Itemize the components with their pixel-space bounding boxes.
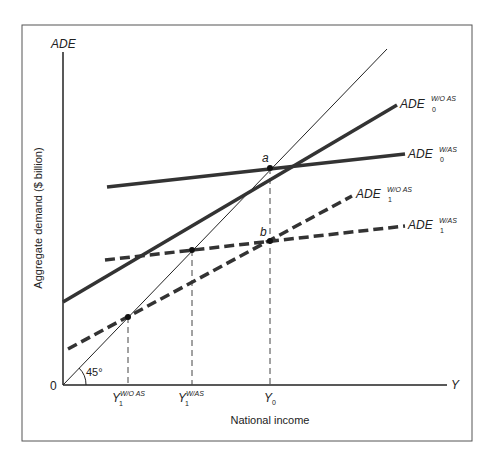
ade1-wo-as-label: ADE W/O AS 1 [355, 186, 412, 203]
svg-text:1: 1 [119, 400, 123, 407]
y-axis-title: ADE [50, 37, 77, 51]
svg-text:ADE: ADE [407, 147, 434, 161]
point-y1-w [189, 247, 195, 253]
origin-label: 0 [50, 379, 57, 393]
svg-text:W/O AS: W/O AS [120, 390, 145, 397]
45-degree-line [63, 49, 387, 385]
point-y1-wo [125, 314, 131, 320]
svg-text:0: 0 [272, 399, 276, 406]
svg-text:1: 1 [388, 196, 392, 203]
svg-text:W/AS: W/AS [186, 390, 204, 397]
svg-text:ADE: ADE [407, 218, 434, 232]
svg-text:1: 1 [185, 400, 189, 407]
ade0-wo-as-label: ADE W/O AS 0 [399, 95, 456, 113]
point-a-label: a [262, 151, 269, 165]
svg-text:0: 0 [432, 106, 436, 113]
ade1-w-as-line [105, 226, 405, 260]
ade-diagram: ADE Y 0 45° Aggregate demand ($ billion)… [0, 0, 494, 463]
point-a [267, 165, 273, 171]
x-axis-title: Y [451, 378, 460, 392]
tick-y0: Y 0 [264, 391, 276, 406]
ade0-w-as-label: ADE W/AS 0 [407, 146, 457, 163]
svg-text:ADE: ADE [355, 187, 382, 201]
angle-label: 45° [86, 366, 103, 378]
svg-text:W/O AS: W/O AS [387, 186, 412, 193]
ade0-wo-as-line [63, 105, 397, 302]
svg-text:W/AS: W/AS [439, 217, 457, 224]
point-b [267, 238, 273, 244]
diagram-frame [22, 25, 472, 441]
ade1-w-as-label: ADE W/AS 1 [407, 217, 457, 234]
y-axis-label: Aggregate demand ($ billion) [32, 147, 44, 288]
svg-text:W/AS: W/AS [439, 146, 457, 153]
tick-y1-wo-as: Y W/O AS 1 [112, 390, 145, 407]
point-b-label: b [260, 225, 267, 239]
x-axis-label: National income [231, 414, 310, 426]
angle-arc [79, 368, 86, 385]
svg-text:W/O AS: W/O AS [431, 95, 456, 102]
svg-text:ADE: ADE [399, 97, 426, 111]
svg-text:1: 1 [440, 227, 444, 234]
tick-y1-w-as: Y W/AS 1 [178, 390, 204, 407]
ade0-w-as-line [107, 154, 405, 187]
svg-text:0: 0 [440, 156, 444, 163]
